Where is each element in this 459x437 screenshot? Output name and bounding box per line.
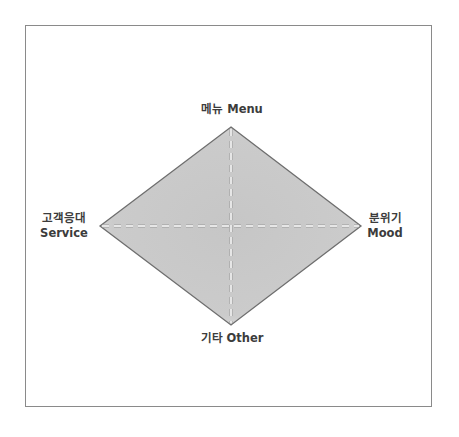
label-service-ko: 고객응대 [30, 211, 98, 226]
label-service-en: Service [30, 226, 98, 241]
label-mood: 분위기 Mood [357, 211, 413, 241]
label-service: 고객응대 Service [30, 211, 98, 241]
label-mood-ko: 분위기 [357, 211, 413, 226]
label-other-ko: 기타 [201, 331, 227, 345]
label-other-en: Other [227, 331, 264, 345]
label-menu-ko: 메뉴 [201, 102, 227, 116]
label-other: 기타 Other [191, 331, 273, 346]
label-mood-en: Mood [357, 226, 413, 241]
label-menu: 메뉴 Menu [194, 102, 270, 117]
label-menu-en: Menu [227, 102, 263, 116]
